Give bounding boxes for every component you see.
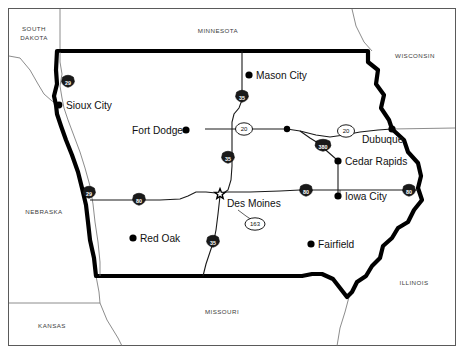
iowa-state-outline xyxy=(54,51,422,297)
city-label-fort-dodge: Fort Dodge xyxy=(132,125,183,136)
city-dot-fairfield[interactable] xyxy=(307,240,314,247)
boundary-mn-wi xyxy=(352,9,372,51)
map-container: SOUTHDAKOTAMINNESOTAWISCONSINNEBRASKAILL… xyxy=(0,0,464,354)
iowa-state-map: SOUTHDAKOTAMINNESOTAWISCONSINNEBRASKAILL… xyxy=(0,0,464,354)
route-number: 163 xyxy=(250,221,261,227)
route-number: 80 xyxy=(303,189,309,195)
city-dot-junction-dot[interactable] xyxy=(284,126,290,132)
city-label-sioux-city: Sioux City xyxy=(66,100,113,111)
city-dot-cedar-rapids[interactable] xyxy=(334,157,341,164)
city-label-dubuque: Dubuque xyxy=(362,134,404,145)
route-number: 80 xyxy=(406,189,412,195)
route-number: 80 xyxy=(136,198,142,204)
state-label-nebraska: NEBRASKA xyxy=(25,208,63,215)
route-marker-i380[interactable]: 380 xyxy=(315,139,331,151)
state-label-south-dakota: SOUTHDAKOTA xyxy=(20,25,48,41)
route-number: 20 xyxy=(241,126,248,132)
route-number: 380 xyxy=(319,144,328,150)
state-label-missouri: MISSOURI xyxy=(205,308,239,315)
boundary-mo-il xyxy=(337,297,349,346)
city-dot-fort-dodge[interactable] xyxy=(182,126,189,133)
route-number: 35 xyxy=(225,156,231,162)
state-label-kansas: KANSAS xyxy=(38,322,66,329)
city-label-fairfield: Fairfield xyxy=(318,239,355,250)
state-label-minnesota: MINNESOTA xyxy=(198,27,239,34)
route-marker-us20-east[interactable]: 20 xyxy=(338,125,355,137)
route-marker-i29-south[interactable]: 29 xyxy=(83,186,96,198)
city-label-iowa-city: Iowa City xyxy=(345,191,388,202)
state-label-illinois: ILLINOIS xyxy=(399,279,428,286)
city-dot-red-oak[interactable] xyxy=(129,234,136,241)
route-marker-i80-east[interactable]: 80 xyxy=(403,184,416,196)
route-marker-us20-west[interactable]: 20 xyxy=(236,123,253,135)
route-number: 29 xyxy=(86,191,92,197)
boundary-wi-il xyxy=(392,128,455,129)
boundary-sd-ne xyxy=(9,56,59,105)
city-dot-mason-city[interactable] xyxy=(245,71,252,78)
city-dot-iowa-city[interactable] xyxy=(334,192,341,199)
river-missouri-south xyxy=(96,276,100,303)
route-marker-i35-mason[interactable]: 35 xyxy=(236,90,249,102)
city-dot-sioux-city[interactable] xyxy=(56,102,63,109)
route-marker-us163[interactable]: 163 xyxy=(245,218,265,230)
city-label-des-moines: Des Moines xyxy=(227,198,281,209)
city-label-mason-city: Mason City xyxy=(256,70,308,81)
route-number: 35 xyxy=(210,240,216,246)
city-label-red-oak: Red Oak xyxy=(140,233,181,244)
boundary-mo-ks xyxy=(100,303,122,346)
route-marker-i80-central[interactable]: 80 xyxy=(300,184,313,196)
route-marker-i80-west[interactable]: 80 xyxy=(133,193,146,205)
route-number: 20 xyxy=(343,128,350,134)
route-marker-i29-north[interactable]: 29 xyxy=(62,75,75,87)
route-marker-i35-south[interactable]: 35 xyxy=(207,235,220,247)
route-number: 35 xyxy=(239,95,245,101)
route-number: 29 xyxy=(65,80,71,86)
state-label-wisconsin: WISCONSIN xyxy=(395,52,435,59)
city-label-cedar-rapids: Cedar Rapids xyxy=(345,156,407,167)
route-marker-i35-central[interactable]: 35 xyxy=(222,151,235,163)
city-dot-dubuque[interactable] xyxy=(388,125,395,132)
